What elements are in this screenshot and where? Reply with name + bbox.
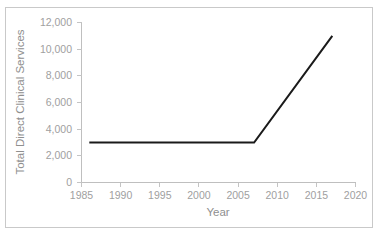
y-tick-label-4000: 4,000 — [46, 123, 72, 135]
x-tick-label-1995: 1995 — [148, 189, 172, 201]
x-axis-title: Year — [206, 206, 229, 218]
line-chart: 12,000 10,000 8,000 6,000 4,000 2,000 0 … — [0, 0, 383, 243]
y-axis-title: Total Direct Clinical Services — [14, 29, 26, 174]
y-tick-label-12000: 12,000 — [40, 16, 72, 28]
x-tick-label-2010: 2010 — [266, 189, 290, 201]
x-tick-label-2000: 2000 — [187, 189, 211, 201]
x-tick-label-2020: 2020 — [344, 189, 368, 201]
data-series-line — [89, 36, 332, 143]
y-tick-label-6000: 6,000 — [46, 96, 72, 108]
x-tick-label-1985: 1985 — [70, 189, 94, 201]
y-tick-marks — [77, 23, 82, 183]
y-tick-label-0: 0 — [66, 176, 72, 188]
y-tick-label-8000: 8,000 — [46, 69, 72, 81]
y-tick-label-10000: 10,000 — [40, 43, 72, 55]
x-tick-label-1990: 1990 — [109, 189, 133, 201]
y-tick-label-2000: 2,000 — [46, 149, 72, 161]
x-tick-label-2015: 2015 — [305, 189, 329, 201]
x-tick-marks — [82, 183, 356, 188]
x-tick-label-2005: 2005 — [226, 189, 250, 201]
